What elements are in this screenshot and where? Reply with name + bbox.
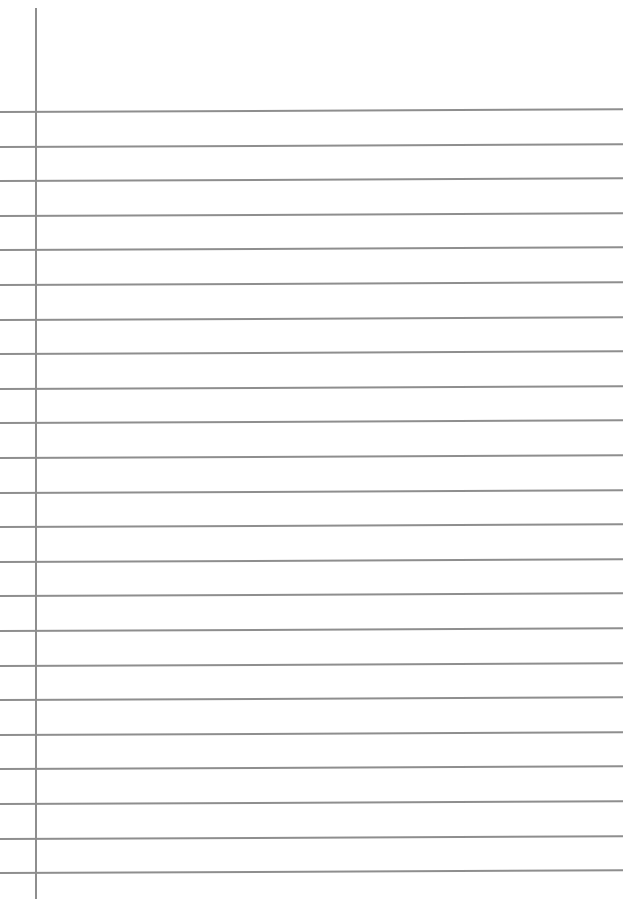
lined-paper-page [0, 0, 628, 899]
rule-line [0, 835, 623, 839]
rule-line [0, 766, 623, 770]
rule-line [0, 350, 623, 354]
rule-line [0, 523, 623, 527]
rule-line [0, 385, 623, 389]
rule-line [0, 731, 623, 735]
rule-line [0, 696, 623, 700]
rule-line [0, 143, 623, 147]
rule-line [0, 316, 623, 320]
rule-line [0, 558, 623, 562]
rule-line [0, 420, 623, 424]
rule-line [0, 662, 623, 666]
rule-line [0, 212, 623, 216]
margin-line [35, 8, 37, 899]
rule-line [0, 454, 623, 458]
rule-line [0, 247, 623, 251]
rule-line [0, 177, 623, 181]
rule-line [0, 489, 623, 493]
rule-line [0, 800, 623, 804]
rule-line [0, 593, 623, 597]
rule-line [0, 869, 623, 873]
rule-line [0, 281, 623, 285]
rule-line [0, 108, 623, 112]
rule-line [0, 627, 623, 631]
